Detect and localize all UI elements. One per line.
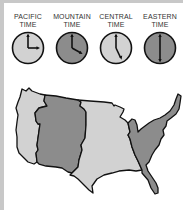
zone-suffix: TIME	[151, 21, 168, 28]
clock-central: CENTRAL TIME	[94, 13, 138, 65]
clock-label: MOUNTAIN TIME	[50, 13, 94, 29]
clock-face-icon	[55, 31, 89, 65]
zone-suffix: TIME	[63, 21, 80, 28]
clock-label: PACIFIC TIME	[6, 13, 50, 29]
clock-mountain: MOUNTAIN TIME	[50, 13, 94, 65]
zone-name: EASTERN	[143, 13, 177, 20]
clock-label: EASTERN TIME	[138, 13, 182, 29]
clock-pacific: PACIFIC TIME	[6, 13, 50, 65]
clock-eastern: EASTERN TIME	[138, 13, 182, 65]
zone-name: CENTRAL	[99, 13, 132, 20]
clock-face-icon	[99, 31, 133, 65]
clock-label: CENTRAL TIME	[94, 13, 138, 29]
time-zone-figure: PACIFIC TIME MOUNTAIN TIME CENTRAL TIME	[0, 0, 183, 210]
zone-suffix: TIME	[19, 21, 36, 28]
zone-name: PACIFIC	[14, 13, 42, 20]
us-time-zone-map	[4, 75, 183, 210]
zone-suffix: TIME	[107, 21, 124, 28]
clock-face-icon	[143, 31, 177, 65]
region-eastern	[128, 94, 181, 194]
zone-name: MOUNTAIN	[53, 13, 91, 20]
clock-face-icon	[11, 31, 45, 65]
